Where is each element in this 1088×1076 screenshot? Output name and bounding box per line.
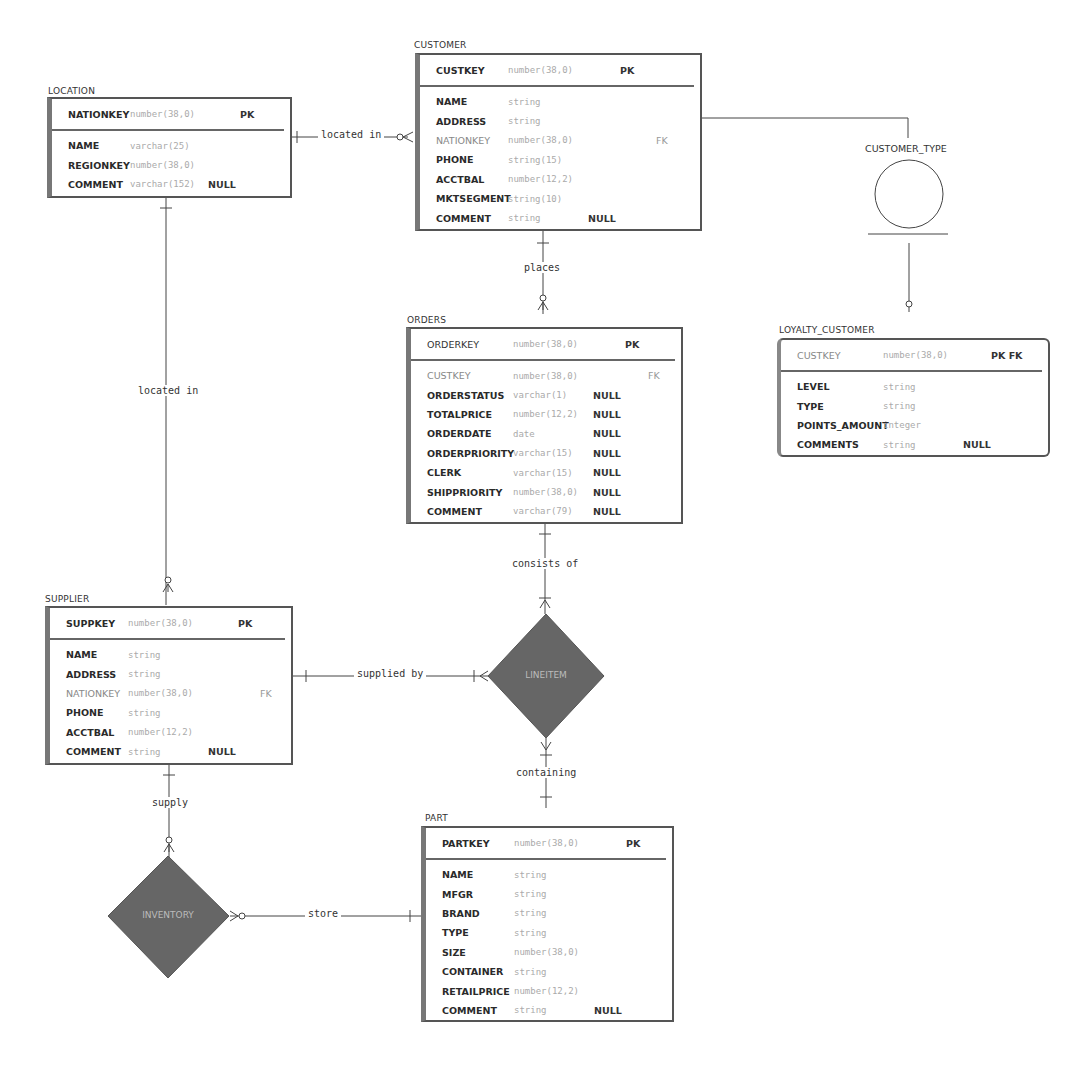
attr-name: NAME (66, 649, 128, 660)
attr-type: number(38,0) (128, 688, 260, 698)
attr-name: NAME (442, 869, 514, 880)
attr-row: RETAILPRICE number(12,2) (426, 981, 672, 1000)
pk-name: SUPPKEY (66, 618, 128, 629)
attr-row: REGIONKEY number(38,0) (52, 155, 290, 174)
attr-type: varchar(15) (513, 448, 593, 458)
attr-type: number(38,0) (130, 160, 208, 170)
attr-null: NULL (963, 439, 991, 450)
pk-row: NATIONKEY number(38,0) PK (52, 99, 284, 131)
pk-name: PARTKEY (442, 838, 514, 849)
entity-title-customer: CUSTOMER (414, 40, 466, 50)
attr-type: number(38,0) (513, 371, 648, 381)
attr-type: string (128, 708, 208, 718)
pk-name: ORDERKEY (427, 339, 513, 350)
attr-type: string (883, 401, 963, 411)
attr-type: string (514, 967, 594, 977)
attr-key: FK (648, 370, 660, 381)
attr-name: MFGR (442, 889, 514, 900)
attr-type: varchar(1) (513, 390, 593, 400)
pk-name: CUSTKEY (436, 65, 508, 76)
pk-type: number(38,0) (130, 109, 240, 119)
attr-null: NULL (593, 428, 621, 439)
attr-name: ADDRESS (436, 116, 508, 127)
attr-row: COMMENT string NULL (50, 742, 291, 761)
pk-type: number(38,0) (514, 838, 626, 848)
attr-name: TYPE (442, 927, 514, 938)
attr-name: POINTS_AMOUNT (797, 420, 883, 431)
attr-name: ORDERPRIORITY (427, 448, 513, 459)
rel-lineitem-part: containing (513, 767, 579, 778)
attr-row: POINTS_AMOUNT integer (781, 416, 1048, 435)
attr-name: ACCTBAL (66, 727, 128, 738)
pk-type: number(38,0) (508, 65, 620, 75)
entity-loyalty-customer[interactable]: CUSTKEY number(38,0) PK FK LEVEL string … (777, 338, 1050, 457)
attr-name: NATIONKEY (436, 135, 508, 146)
pk-name: CUSTKEY (797, 350, 883, 361)
attr-name: COMMENTS (797, 439, 883, 450)
subtype-customer-type-label: CUSTOMER_TYPE (865, 143, 947, 154)
attr-name: MKTSEGMENT (436, 193, 508, 204)
attr-name: TOTALPRICE (427, 409, 513, 420)
attr-name: ORDERSTATUS (427, 390, 513, 401)
attr-row: CLERK varchar(15) NULL (411, 463, 681, 482)
attr-type: number(38,0) (514, 947, 594, 957)
attr-type: number(12,2) (128, 727, 208, 737)
attr-type: string (883, 440, 963, 450)
pk-key: PK (240, 109, 254, 120)
rel-inventory-part: store (305, 908, 341, 919)
attr-null: NULL (208, 179, 236, 190)
attr-null: NULL (593, 467, 621, 478)
entity-orders[interactable]: ORDERKEY number(38,0) PK CUSTKEY number(… (406, 327, 683, 524)
attr-row: NAME string (426, 865, 672, 884)
attr-row: SIZE number(38,0) (426, 943, 672, 962)
pk-row: CUSTKEY number(38,0) PK FK (781, 340, 1042, 372)
pk-key: PK FK (991, 350, 1022, 361)
attr-type: string (514, 1005, 594, 1015)
attr-row: ORDERDATE date NULL (411, 424, 681, 443)
entity-title-part: PART (425, 813, 448, 823)
attr-type: string (128, 747, 208, 757)
attr-type: number(38,0) (513, 487, 593, 497)
attr-name: CONTAINER (442, 966, 514, 977)
attr-type: string (508, 213, 588, 223)
attr-type: number(12,2) (513, 409, 593, 419)
rel-customer-orders: places (521, 262, 563, 273)
pk-key: PK (625, 339, 639, 350)
attr-row: SHIPPRIORITY number(38,0) NULL (411, 482, 681, 501)
pk-key: PK (626, 838, 640, 849)
attr-type: string (514, 928, 594, 938)
entity-customer[interactable]: CUSTKEY number(38,0) PK NAME string ADDR… (415, 53, 702, 231)
attr-row: NAME varchar(25) (52, 136, 290, 155)
attr-name: COMMENT (66, 746, 128, 757)
entity-location[interactable]: NATIONKEY number(38,0) PK NAME varchar(2… (47, 97, 292, 198)
pk-type: number(38,0) (128, 618, 238, 628)
attr-row: ORDERPRIORITY varchar(15) NULL (411, 444, 681, 463)
attr-row: COMMENT string NULL (426, 1001, 672, 1020)
rel-supplier-lineitem: supplied by (354, 668, 426, 679)
entity-part[interactable]: PARTKEY number(38,0) PK NAME string MFGR… (421, 826, 674, 1022)
attr-row: NAME string (420, 92, 700, 111)
attr-row: COMMENT varchar(152) NULL (52, 175, 290, 194)
attr-row: NATIONKEY number(38,0) FK (420, 131, 700, 150)
attr-key: FK (656, 135, 668, 146)
attr-type: string (514, 870, 594, 880)
attr-type: string(10) (508, 194, 598, 204)
attr-type: string (508, 116, 598, 126)
attr-type: number(12,2) (508, 174, 598, 184)
attr-type: string(15) (508, 155, 598, 165)
attr-row: ORDERSTATUS varchar(1) NULL (411, 385, 681, 404)
attr-row: NATIONKEY number(38,0) FK (50, 684, 291, 703)
rel-orders-lineitem: consists of (509, 558, 581, 569)
attr-row: CUSTKEY number(38,0) FK (411, 366, 681, 385)
attr-row: COMMENT varchar(79) NULL (411, 502, 681, 521)
attr-type: string (514, 889, 594, 899)
pk-type: number(38,0) (513, 339, 625, 349)
attr-row: COMMENT string NULL (420, 208, 700, 227)
attr-name: TYPE (797, 401, 883, 412)
entity-title-supplier: SUPPLIER (45, 594, 89, 604)
entity-supplier[interactable]: SUPPKEY number(38,0) PK NAME string ADDR… (45, 606, 293, 765)
attr-name: COMMENT (427, 506, 513, 517)
attr-row: NAME string (50, 645, 291, 664)
attr-row: CONTAINER string (426, 962, 672, 981)
attr-name: NATIONKEY (66, 688, 128, 699)
